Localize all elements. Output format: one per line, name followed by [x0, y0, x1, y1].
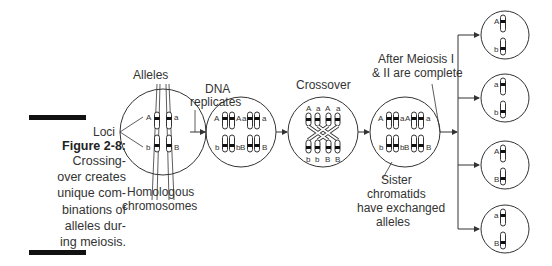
- svg-text:B: B: [262, 143, 267, 152]
- homologous-label-1: Homologous: [127, 185, 194, 199]
- svg-text:a: a: [316, 104, 321, 113]
- svg-text:B: B: [335, 155, 340, 164]
- svg-text:b: b: [315, 155, 320, 164]
- svg-text:A: A: [146, 113, 152, 122]
- svg-text:B: B: [404, 143, 409, 152]
- svg-text:A: A: [405, 114, 411, 123]
- dna-label-1: DNA: [205, 82, 230, 96]
- sister-label-2: chromatids: [367, 187, 426, 201]
- svg-text:b: b: [379, 143, 384, 152]
- homologous-label-2: chromosomes: [122, 199, 197, 213]
- svg-text:B: B: [494, 175, 499, 184]
- gamete-4: aB: [481, 205, 529, 253]
- crossover-label: Crossover: [296, 78, 351, 92]
- svg-text:b: b: [306, 155, 311, 164]
- after-meiosis-label-2: & II are complete: [372, 66, 463, 80]
- svg-text:A: A: [494, 17, 500, 26]
- svg-text:A: A: [306, 104, 312, 113]
- svg-text:A: A: [325, 104, 331, 113]
- stage-exchanged: Aa Aa bb BB: [370, 97, 440, 178]
- sister-label-3: have exchanged: [357, 201, 445, 215]
- gamete-1: Ab: [481, 11, 529, 59]
- svg-text:a: a: [174, 113, 179, 122]
- sister-label-4: alleles: [376, 215, 410, 229]
- svg-text:a: a: [494, 80, 499, 89]
- svg-text:A: A: [378, 114, 384, 123]
- svg-text:A: A: [214, 114, 220, 123]
- svg-text:a: a: [426, 114, 431, 123]
- svg-text:A: A: [494, 147, 500, 156]
- svg-text:b: b: [494, 108, 499, 117]
- meiosis-diagram: A a b B Alleles Loci Homologous chromoso…: [0, 0, 552, 266]
- sister-label-1: Sister: [381, 173, 412, 187]
- gamete-3: AB: [481, 141, 529, 189]
- stage-crossover: Aa Aa bb BB: [288, 97, 358, 167]
- svg-text:B: B: [174, 143, 179, 152]
- svg-text:b: b: [146, 143, 151, 152]
- svg-text:b: b: [494, 45, 499, 54]
- loci-label: Loci: [93, 125, 115, 139]
- svg-text:B: B: [240, 143, 245, 152]
- dna-label-2: replicates: [190, 95, 241, 109]
- alleles-label: Alleles: [133, 68, 168, 82]
- after-meiosis-label-1: After Meiosis I: [378, 52, 454, 66]
- gamete-2: ab: [481, 74, 529, 122]
- svg-text:B: B: [426, 143, 431, 152]
- svg-text:a: a: [242, 114, 247, 123]
- svg-text:a: a: [494, 211, 499, 220]
- svg-text:a: a: [262, 114, 267, 123]
- svg-text:b: b: [215, 143, 220, 152]
- svg-text:a: a: [336, 104, 341, 113]
- svg-text:B: B: [325, 155, 330, 164]
- svg-text:B: B: [494, 239, 499, 248]
